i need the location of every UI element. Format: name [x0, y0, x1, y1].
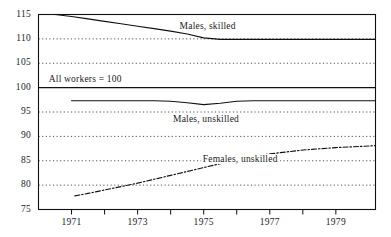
y-tick-label: 115 [3, 10, 31, 20]
x-tick-label: 1977 [250, 218, 290, 228]
x-tick-label: 1979 [316, 218, 356, 228]
series-line-males-unskilled [72, 101, 376, 105]
data-series [39, 15, 376, 196]
y-tick-label: 85 [3, 156, 31, 166]
x-tick-label: 1971 [52, 218, 92, 228]
y-tick-label: 90 [3, 131, 31, 141]
series-line-females-unskilled [75, 146, 376, 196]
y-tick-label: 105 [3, 58, 31, 68]
series-label: Males, unskilled [171, 114, 241, 124]
y-tick-label: 95 [3, 107, 31, 117]
x-axis-ticks [72, 210, 336, 215]
series-label: Males, skilled [178, 21, 238, 31]
series-label: Females, unskilled [201, 154, 280, 164]
y-tick-label: 110 [3, 34, 31, 44]
y-tick-label: 100 [3, 83, 31, 93]
y-tick-label: 75 [3, 205, 31, 215]
x-tick-label: 1975 [184, 218, 224, 228]
chart-container: 7580859095100105110115 19711973197519771… [0, 0, 391, 237]
x-tick-label: 1973 [118, 218, 158, 228]
y-tick-label: 80 [3, 180, 31, 190]
baseline-note: All workers = 100 [47, 74, 124, 84]
